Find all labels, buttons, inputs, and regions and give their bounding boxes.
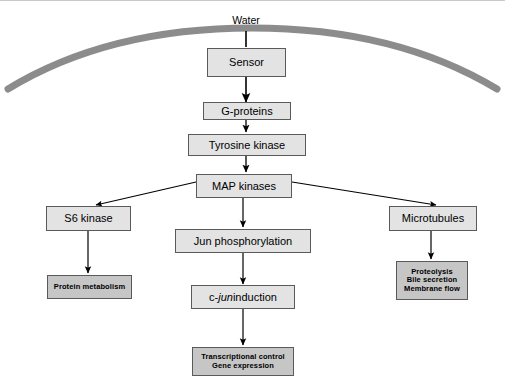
node-s6-kinase[interactable]: S6 kinase: [46, 206, 131, 231]
node-protein-metabolism[interactable]: Protein metabolism: [47, 275, 132, 299]
edge-mapkinases-s6kinase: [96, 182, 196, 205]
node-map-kinases[interactable]: MAP kinases: [196, 174, 292, 198]
node-transcriptional-control[interactable]: Transcriptional control Gene expression: [192, 347, 294, 376]
edge-mapkinases-microtubules: [292, 182, 436, 205]
node-microtubules[interactable]: Microtubules: [389, 206, 477, 231]
node-tyrosine-kinase[interactable]: Tyrosine kinase: [188, 134, 306, 156]
node-sensor[interactable]: Sensor: [207, 48, 286, 77]
c-jun-italic: jun: [218, 291, 233, 303]
diagram-canvas: Water Sensor G-proteins Tyrosine kinase …: [0, 0, 505, 385]
node-proteolysis-group[interactable]: Proteolysis Bile secretion Membrane flow: [396, 261, 468, 300]
c-jun-suffix: induction: [233, 291, 277, 303]
node-jun-phosphorylation[interactable]: Jun phosphorylation: [175, 229, 311, 253]
input-label-water: Water: [214, 14, 278, 26]
c-jun-prefix: c-: [209, 291, 218, 303]
node-c-jun-induction[interactable]: c-jun induction: [191, 285, 295, 309]
node-g-proteins[interactable]: G-proteins: [203, 102, 291, 120]
